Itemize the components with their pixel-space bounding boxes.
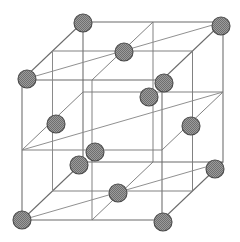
atom-corner-front-bottom-right: [154, 213, 172, 231]
atom-corner-front-bottom-left: [13, 211, 31, 229]
atom-face-right-upper: [155, 74, 173, 92]
atom-face-back-center: [140, 88, 158, 106]
atom-face-top-center: [115, 43, 133, 61]
atom-face-right-center: [182, 117, 200, 135]
atom-face-left-center: [47, 115, 65, 133]
lattice-diagram: [0, 0, 240, 242]
atom-corner-back-top-left: [74, 14, 92, 32]
atom-corner-back-top-right: [212, 17, 230, 35]
atom-corner-back-bottom-left: [109, 184, 127, 202]
atom-face-front-center: [86, 143, 104, 161]
lattice-figure: [0, 0, 240, 242]
atom-face-bottom-center: [70, 156, 88, 174]
atom-corner-front-top-left: [18, 70, 36, 88]
atom-corner-back-bottom-right: [206, 160, 224, 178]
